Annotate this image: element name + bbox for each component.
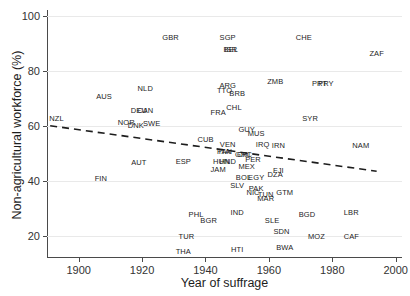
data-point-moz: MOZ xyxy=(308,234,325,242)
x-tick-label: 1940 xyxy=(193,264,217,276)
data-point-sgp: SGP xyxy=(220,34,236,42)
data-point-hti: HTI xyxy=(231,246,243,254)
y-tick-label: 40 xyxy=(28,175,40,187)
y-tick-mark xyxy=(43,236,47,237)
data-point-nld: NLD xyxy=(138,85,153,93)
y-tick-label: 80 xyxy=(28,65,40,77)
data-point-lbr: LBR xyxy=(344,209,359,217)
x-tick-label: 1980 xyxy=(320,264,344,276)
gridline xyxy=(47,16,402,17)
data-point-che: CHE xyxy=(296,34,312,42)
data-point-tun: TUN xyxy=(258,191,274,199)
data-point-esp: ESP xyxy=(176,158,191,166)
x-tick-mark xyxy=(79,258,80,262)
data-point-sle: SLE xyxy=(265,217,279,225)
data-point-aut: AUT xyxy=(131,159,146,167)
data-point-fra: FRA xyxy=(211,110,226,118)
y-axis-title: Non-agricultural workforce (%) xyxy=(10,10,24,260)
data-point-fin: FIN xyxy=(95,176,107,184)
y-tick-label: 20 xyxy=(28,230,40,242)
data-point-bwa: BWA xyxy=(276,245,293,253)
data-point-syr: SYR xyxy=(302,115,318,123)
x-tick-mark xyxy=(332,258,333,262)
data-point-jam: JAM xyxy=(211,166,226,174)
data-point-hnd: HND xyxy=(219,158,236,166)
x-tick-label: 2000 xyxy=(383,264,407,276)
data-point-ind: IND xyxy=(231,209,244,217)
data-point-bgd: BGD xyxy=(299,212,316,220)
data-point-zaf: ZAF xyxy=(369,50,383,58)
plot-area: 20406080100 190019201940196019802000 NZL… xyxy=(47,10,402,258)
data-point-tha: THA xyxy=(176,249,191,257)
y-tick-mark xyxy=(43,126,47,127)
data-point-ven: VEN xyxy=(220,141,236,149)
scatter-plot-figure: 20406080100 190019201940196019802000 NZL… xyxy=(0,0,410,296)
y-tick-mark xyxy=(43,181,47,182)
y-tick-mark xyxy=(43,71,47,72)
data-point-sdn: SDN xyxy=(273,228,289,236)
data-point-irq: IRQ xyxy=(256,141,270,149)
data-point-zmb: ZMB xyxy=(267,78,283,86)
chart-title xyxy=(47,0,402,3)
data-point-chl: CHL xyxy=(226,104,241,112)
x-axis-title: Year of suffrage xyxy=(47,276,402,290)
x-tick-label: 1920 xyxy=(130,264,154,276)
x-tick-mark xyxy=(205,258,206,262)
data-point-brb: BRB xyxy=(229,90,245,98)
data-point-mus: MUS xyxy=(248,130,265,138)
data-point-can: CAN xyxy=(137,107,153,115)
data-point-dnk: DNK xyxy=(128,122,144,130)
x-tick-label: 1960 xyxy=(257,264,281,276)
data-point-gbr: GBR xyxy=(162,34,179,42)
data-point-per: PER xyxy=(245,156,261,164)
data-point-tur: TUR xyxy=(179,234,195,242)
data-point-mex: MEX xyxy=(238,163,255,171)
data-point-gtm: GTM xyxy=(276,189,293,197)
x-tick-label: 1900 xyxy=(66,264,90,276)
x-tick-mark xyxy=(396,258,397,262)
data-point-nam: NAM xyxy=(352,143,369,151)
data-point-bgr: BGR xyxy=(200,217,217,225)
y-tick-label: 100 xyxy=(22,10,40,22)
data-point-cub: CUB xyxy=(197,136,213,144)
data-point-irn: IRN xyxy=(272,143,285,151)
data-point-aus: AUS xyxy=(96,93,112,101)
x-tick-mark xyxy=(269,258,270,262)
data-point-nzl: NZL xyxy=(49,115,63,123)
data-point-swe: SWE xyxy=(143,121,160,129)
data-point-dza: DZA xyxy=(268,172,283,180)
data-point-slv: SLV xyxy=(230,183,244,191)
gridline xyxy=(47,71,402,72)
data-point-egy: EGY xyxy=(248,174,264,182)
data-point-prt: PRT xyxy=(312,81,327,89)
y-tick-mark xyxy=(43,16,47,17)
x-tick-mark xyxy=(142,258,143,262)
y-tick-label: 60 xyxy=(28,120,40,132)
data-point-isr: ISR xyxy=(224,46,237,54)
data-point-pan: PAN xyxy=(217,148,232,156)
gridline xyxy=(47,126,402,127)
data-point-caf: CAF xyxy=(344,234,359,242)
